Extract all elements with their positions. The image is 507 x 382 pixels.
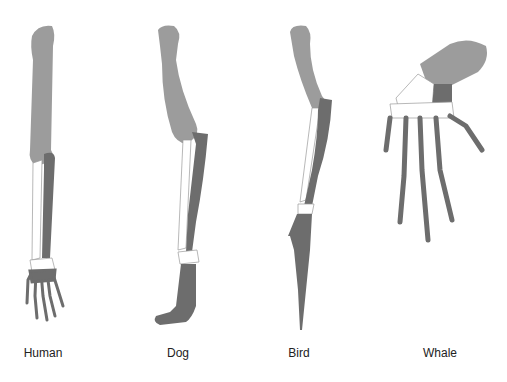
whale-forelimb — [386, 40, 487, 240]
forelimb-diagram — [0, 0, 507, 382]
human-radius — [32, 160, 42, 260]
human-forelimb — [27, 26, 63, 320]
dog-carpals — [178, 250, 199, 264]
label-whale: Whale — [423, 346, 457, 360]
whale-carpals — [390, 102, 454, 118]
bird-digits — [288, 214, 312, 330]
dog-humerus — [158, 26, 197, 145]
label-bird: Bird — [288, 346, 309, 360]
label-human: Human — [24, 346, 63, 360]
human-ulna — [42, 153, 55, 258]
label-dog: Dog — [167, 346, 189, 360]
dog-digits — [155, 264, 196, 325]
dog-forelimb — [155, 26, 208, 326]
human-digits — [27, 270, 63, 320]
human-humerus — [30, 26, 55, 166]
bird-forelimb — [288, 26, 332, 330]
whale-digits — [386, 116, 482, 240]
bird-carpals — [298, 204, 314, 214]
